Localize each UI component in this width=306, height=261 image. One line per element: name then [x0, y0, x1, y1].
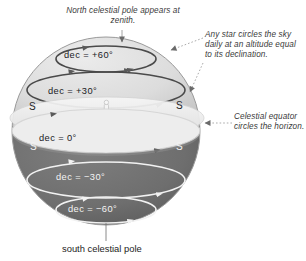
annotation-celestial-equator: Celestial equator circles the horizon.	[234, 112, 306, 132]
celestial-sphere-diagram: North celestial pole appears at zenith. …	[0, 0, 306, 261]
dec-label-minus30: dec = −30°	[56, 172, 105, 182]
dec-label-minus60: dec = −60°	[68, 204, 117, 214]
horizon-marker-s-lower-right: S	[176, 141, 183, 152]
caption-south-celestial-pole: south celestial pole	[62, 243, 142, 254]
annotation-north-celestial-pole: North celestial pole appears at zenith.	[64, 6, 182, 26]
annotation-star-circles-sky: Any star circles the sky daily at an alt…	[205, 30, 304, 61]
dec-label-zero: dec = 0°	[39, 133, 77, 143]
dec-label-plus60: dec = +60°	[64, 50, 113, 60]
horizon-marker-s-upper-right: S	[176, 100, 183, 111]
horizon-marker-s-upper-left: S	[29, 101, 36, 112]
horizon-marker-s-lower-left: S	[30, 141, 37, 152]
dec-circle-0	[12, 109, 200, 153]
dec-label-plus30: dec = +30°	[48, 86, 97, 96]
